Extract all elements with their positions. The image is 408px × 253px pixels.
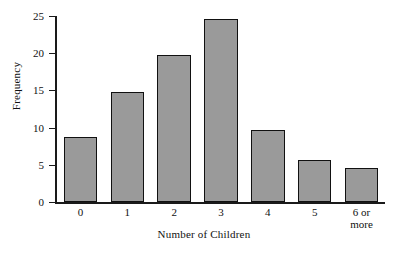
x-axis-line [55, 202, 385, 204]
y-tick-mark [49, 16, 55, 17]
y-axis-title: Frequency [10, 46, 22, 126]
y-tick-mark [49, 53, 55, 54]
y-tick-mark [49, 90, 55, 91]
x-tick-label: 3 [198, 207, 245, 219]
x-tick-label: 4 [244, 207, 291, 219]
bar [345, 168, 379, 202]
y-tick-label: 0 [24, 196, 44, 208]
y-tick-label: 15 [24, 84, 44, 96]
x-tick-label: 5 [291, 207, 338, 219]
plot-area [57, 16, 385, 202]
bar [157, 55, 191, 202]
x-axis-title: Number of Children [0, 228, 408, 240]
bar [64, 137, 98, 202]
y-tick-label: 10 [24, 122, 44, 134]
x-tick-label: 6 or more [338, 207, 385, 230]
x-tick-label: 0 [57, 207, 104, 219]
bar [111, 92, 145, 202]
bar [251, 130, 285, 202]
y-tick-label: 25 [24, 10, 44, 22]
y-tick-mark [49, 165, 55, 166]
y-tick-mark [49, 202, 55, 203]
bar [204, 19, 238, 202]
y-tick-label: 20 [24, 47, 44, 59]
x-tick-label: 2 [151, 207, 198, 219]
x-tick-label: 1 [104, 207, 151, 219]
y-tick-mark [49, 128, 55, 129]
histogram-chart: 0510152025 Frequency 0123456 or more Num… [0, 0, 408, 253]
y-tick-label: 5 [24, 159, 44, 171]
bar [298, 160, 332, 202]
